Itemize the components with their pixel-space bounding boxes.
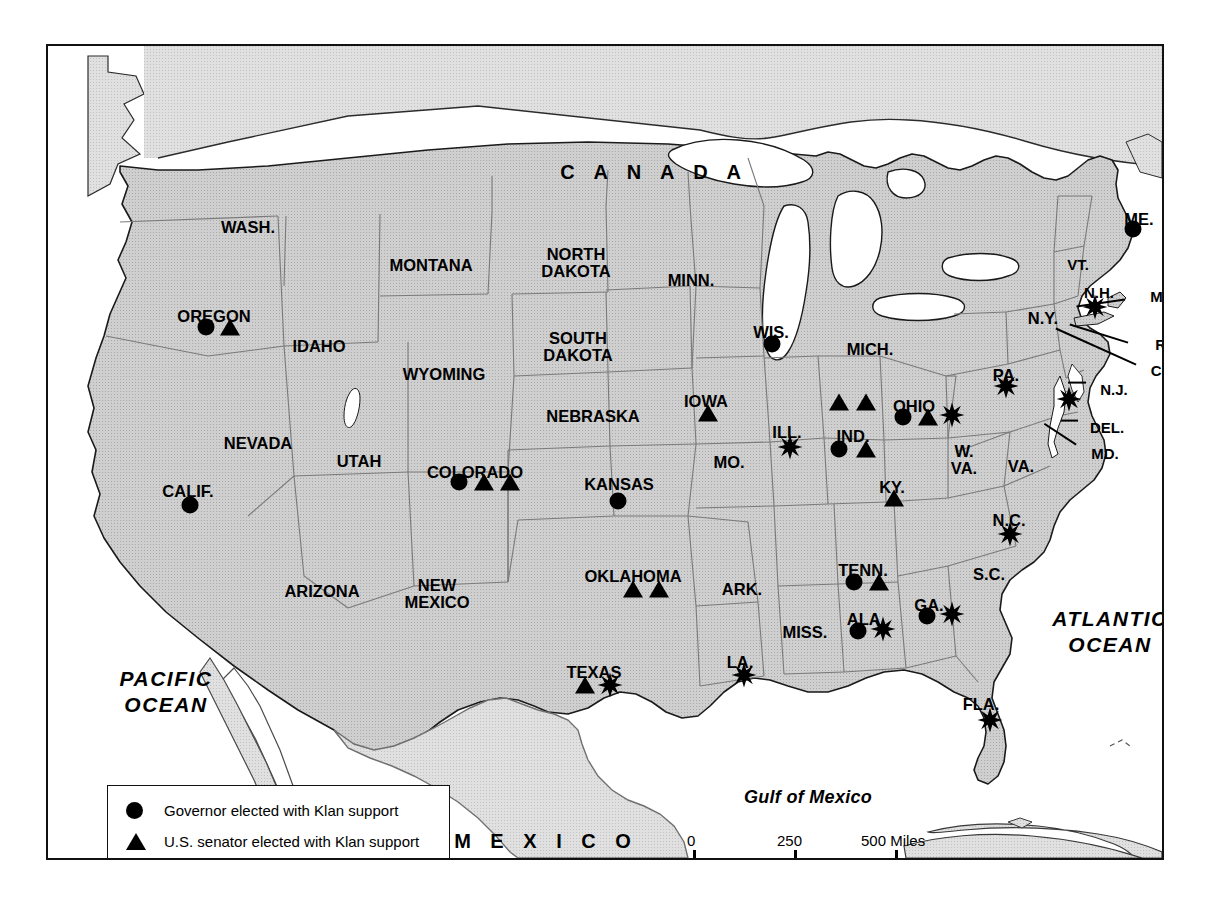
marker-tenn-governor [846,574,863,591]
marker-kansas-governor [610,493,627,510]
marker-fla-violence [977,707,1003,733]
marker-texas-violence [597,672,623,698]
marker-ala-violence [870,616,896,642]
legend-label-senator: U.S. senator elected with Klan support [164,833,419,850]
legend-item-governor: Governor elected with Klan support [108,795,449,826]
map-legend: Governor elected with Klan support U.S. … [107,785,450,860]
legend-item-violence: Major areas of Klan violence [108,857,449,860]
marker-ky-senator [884,490,904,507]
marker-me-governor [1125,221,1142,238]
triangle-icon [126,833,164,850]
marker-ind-senator-3 [856,441,876,458]
marker-nc-violence [997,521,1023,547]
marker-ga-violence [939,601,965,627]
marker-ind-governor [831,441,848,458]
marker-ga-governor [919,608,936,625]
marker-ind-senator-1 [829,394,849,411]
marker-iowa-senator [698,405,718,422]
marker-oklahoma-senator-2 [649,581,669,598]
marker-ohio-governor [895,409,912,426]
marker-colorado-senator-2 [500,474,520,491]
marker-texas-senator [575,677,595,694]
marker-colorado-governor [451,474,468,491]
nj-leader [1068,382,1086,384]
scale-tick-mi-0 [693,850,696,860]
legend-label-governor: Governor elected with Klan support [164,802,398,819]
scale-label-mi-500: 500 Miles [861,832,925,849]
marker-colorado-senator-1 [474,474,494,491]
map-root: C A N A D AM E X I C OPACIFICOCEANATLANT… [0,0,1210,913]
map-canvas [48,46,1162,858]
marker-pa-violence [993,373,1019,399]
marker-calif-governor [182,497,199,514]
del-leader [1061,420,1078,422]
marker-ny-violence [1082,294,1108,320]
marker-del-violence [1056,386,1082,412]
scale-bar: 0 250 500 Miles 0 250 500 Kilometers [685,834,945,860]
marker-ohio-senator [918,409,938,426]
marker-oregon-governor [198,319,215,336]
map-frame: C A N A D AM E X I C OPACIFICOCEANATLANT… [46,44,1164,860]
marker-ohio-violence [939,402,965,428]
scale-tick-mi-250 [794,850,797,860]
marker-wis-governor [764,336,781,353]
scale-label-mi-250: 250 [777,832,802,849]
marker-tenn-senator [869,574,889,591]
scale-tick-mi-500 [895,850,898,860]
marker-ala-governor [850,623,867,640]
marker-la-violence [731,662,757,688]
marker-ind-senator-2 [856,394,876,411]
legend-item-senator: U.S. senator elected with Klan support [108,826,449,857]
marker-oregon-senator [220,319,240,336]
marker-oklahoma-senator-1 [623,581,643,598]
scale-label-mi-0: 0 [687,832,695,849]
marker-ill-violence [777,434,803,460]
circle-icon [126,802,164,819]
